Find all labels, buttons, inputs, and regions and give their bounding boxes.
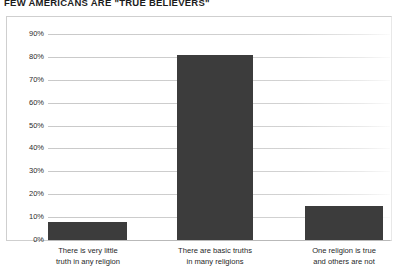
x-category-label: One religion is trueand others are not [292, 246, 396, 267]
x-category-label-line: truth in any religion [38, 257, 138, 268]
x-category-label-line: in many religions [163, 257, 267, 268]
x-axis-baseline [48, 240, 390, 241]
bar[interactable] [177, 55, 253, 240]
plot-area: There is very littletruth in any religio… [0, 0, 418, 278]
x-category-label-line: There is very little [58, 246, 118, 255]
bar-chart-figure: FEW AMERICANS ARE "TRUE BELIEVERS" 0%10%… [0, 0, 418, 278]
x-category-label-line: One religion is true [312, 246, 376, 255]
bar[interactable] [48, 222, 127, 240]
x-category-label: There are basic truthsin many religions [163, 246, 267, 267]
bar[interactable] [305, 206, 383, 240]
x-category-label-line: There are basic truths [178, 246, 252, 255]
x-category-label: There is very littletruth in any religio… [38, 246, 138, 267]
x-category-label-line: and others are not [292, 257, 396, 268]
